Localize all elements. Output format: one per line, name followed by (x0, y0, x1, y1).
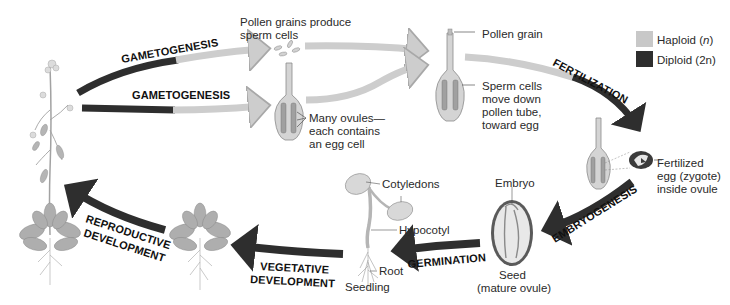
label-pollen-produce-line1: Pollen grains produce (240, 16, 351, 28)
pistil-ovules-icon (275, 63, 306, 140)
label-zygote-line3: inside ovule (657, 183, 718, 195)
label-cotyledons: Cotyledons (382, 178, 440, 190)
stage-embryogenesis: EMBRYOGENESIS (550, 183, 640, 245)
fertilized-pistil-icon (587, 118, 630, 189)
label-sperm-line4: toward egg (482, 119, 539, 131)
flowering-plant-icon (17, 60, 82, 285)
legend: Haploid (n) Diploid (2n) (636, 31, 716, 67)
seed-icon (491, 187, 533, 266)
vegetative-development-arrow (240, 246, 343, 254)
label-sperm-line2: move down (482, 93, 541, 105)
ovules-to-pistil-arrow (306, 66, 420, 100)
label-sperm-line3: pollen tube, (482, 106, 541, 118)
pollinated-pistil-icon (436, 29, 475, 121)
label-ovules-line2: each contains (309, 125, 380, 137)
label-ovules-line1: Many ovules— (309, 112, 386, 124)
label-root: Root (379, 265, 404, 277)
stage-vegetative-line2: DEVELOPMENT (250, 273, 336, 289)
life-cycle-diagram: GAMETOGENESIS GAMETOGENESIS FERTILIZATIO… (0, 0, 730, 305)
label-ovules-line3: an egg cell (309, 138, 365, 150)
legend-label-diploid: Diploid (2n) (657, 54, 716, 66)
pollen-grains-icon (274, 40, 301, 57)
gametogenesis-bottom-arrow (82, 106, 262, 110)
pollen-to-pistil-arrow (305, 46, 420, 50)
germination-arrow (400, 243, 480, 250)
label-embryo: Embryo (495, 177, 535, 189)
label-sperm-line1: Sperm cells (482, 80, 542, 92)
label-hypocotyl: Hypocotyl (399, 224, 450, 236)
legend-swatch-diploid (636, 51, 653, 67)
label-pollen-produce-line2: sperm cells (240, 29, 298, 41)
label-seedling: Seedling (345, 281, 390, 293)
rosette-plant-icon (167, 203, 232, 290)
label-seed-line2: (mature ovule) (477, 282, 551, 294)
label-seed-line1: Seed (499, 269, 526, 281)
label-pollen-grain: Pollen grain (482, 28, 543, 40)
legend-label-haploid: Haploid (n) (657, 34, 713, 46)
label-zygote-line1: Fertilized (657, 157, 704, 169)
legend-swatch-haploid (636, 31, 653, 47)
stage-gametogenesis-bottom: GAMETOGENESIS (132, 89, 230, 101)
stage-fertilization: FERTILIZATION (551, 56, 630, 106)
label-zygote-line2: egg (zygote) (657, 170, 721, 182)
stage-germination: GERMINATION (407, 251, 486, 270)
